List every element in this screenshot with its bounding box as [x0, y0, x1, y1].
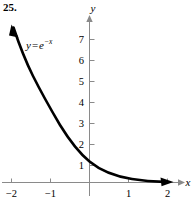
y-tick-label: 2 [79, 139, 84, 150]
equation-operator: = [31, 39, 39, 51]
x-tick-label: −2 [6, 188, 17, 199]
y-tick-label: 3 [79, 118, 84, 129]
y-axis-arrowhead [86, 15, 92, 22]
y-tick-label: 7 [79, 34, 84, 45]
equation-exponent: −x [44, 37, 52, 46]
y-tick-label: 6 [79, 55, 84, 66]
x-axis-arrowhead [178, 179, 185, 185]
x-tick-label: 2 [165, 188, 170, 199]
exercise-figure: 25. −2 −1 1 2 [0, 0, 193, 201]
y-axis-label: y [90, 2, 96, 14]
y-tick-label: 5 [79, 76, 84, 87]
y-tick-label: 1 [79, 160, 84, 171]
x-tick-label: −1 [45, 188, 56, 199]
y-tick-label: 4 [79, 97, 85, 108]
x-tick-label: 1 [126, 188, 131, 199]
x-axis-label: x [185, 176, 191, 188]
curve-equation-label: y=e−x [26, 40, 52, 51]
y-axis-ticks [90, 40, 95, 166]
graph-plot: −2 −1 1 2 1 2 3 4 5 6 7 x y [0, 0, 193, 201]
